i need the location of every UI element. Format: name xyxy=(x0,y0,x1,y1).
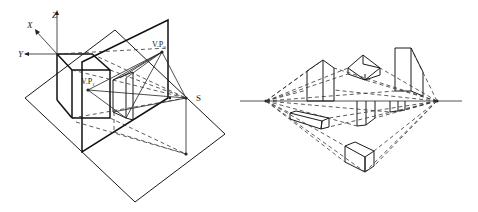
axis-x-label: X xyxy=(26,20,33,30)
box-floating-center xyxy=(348,55,380,80)
x-axis xyxy=(36,31,57,54)
axis-y-label: Y xyxy=(18,49,24,59)
left-perspective-diagram: Z X Y V.P1 V.P2 S xyxy=(18,10,225,202)
box-tall-left xyxy=(307,60,334,101)
box-below-left xyxy=(290,111,329,129)
box-tall-right xyxy=(395,48,423,96)
object-box xyxy=(57,54,110,118)
station-label: S xyxy=(196,93,201,103)
vp1-label: V.P1 xyxy=(81,77,95,87)
projected-image xyxy=(113,72,133,120)
figure-panel: Z X Y V.P1 V.P2 S xyxy=(0,0,478,212)
ground-plane xyxy=(25,30,225,202)
right-two-point-perspective xyxy=(240,48,462,172)
